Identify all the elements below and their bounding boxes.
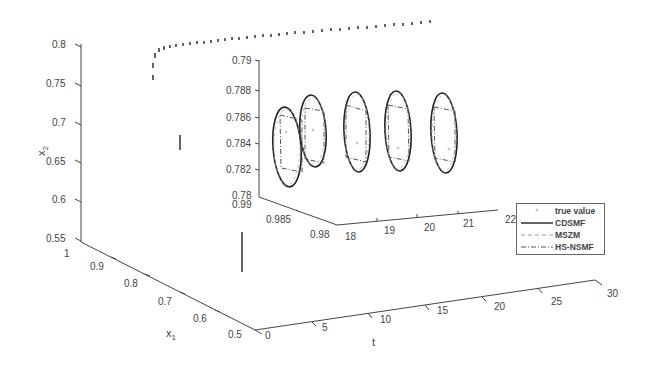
svg-text:22: 22 [505, 214, 517, 225]
svg-text:0: 0 [265, 330, 271, 341]
x1-axis-label: x1 [166, 327, 177, 342]
main-axes [75, 44, 602, 334]
svg-text:0.6: 0.6 [52, 194, 66, 205]
legend-item-hs-nsmf: HS-NSMF [517, 241, 604, 253]
svg-text:20: 20 [494, 301, 506, 312]
svg-text:0.9: 0.9 [90, 261, 104, 272]
svg-text:0.6: 0.6 [193, 313, 207, 324]
svg-text:0.788: 0.788 [226, 85, 251, 96]
svg-text:0.8: 0.8 [52, 39, 66, 50]
dashed-line-icon [517, 229, 553, 241]
svg-text:0.98: 0.98 [310, 229, 330, 240]
x2-axis-label: x2 [35, 146, 50, 157]
legend-item-cdsmf: CDSMF [517, 217, 604, 229]
svg-text:0.784: 0.784 [226, 138, 251, 149]
x1-axis-line [81, 242, 255, 330]
svg-text:15: 15 [437, 305, 449, 316]
t-tick-labels: 0 5 10 15 20 25 30 [265, 288, 619, 341]
svg-text:0.99: 0.99 [232, 199, 252, 210]
svg-text:0.7: 0.7 [52, 117, 66, 128]
svg-text:0.79: 0.79 [232, 55, 252, 66]
svg-text:0.786: 0.786 [226, 112, 251, 123]
svg-text:0.7: 0.7 [158, 296, 172, 307]
svg-text:25: 25 [551, 296, 563, 307]
ellipse-t22 [429, 92, 459, 173]
x1-tick-labels: 1 0.9 0.8 0.7 0.6 0.5 [64, 248, 242, 340]
svg-text:0.75: 0.75 [46, 78, 66, 89]
legend: true value CDSMF MSZM HS-NSMF [516, 203, 605, 255]
inset-t-tick-labels: 18 19 20 21 22 [345, 214, 517, 242]
svg-text:0.8: 0.8 [124, 278, 138, 289]
chart-canvas: 0.8 0.75 0.7 0.65 0.6 0.55 x2 1 0.9 0.8 … [0, 0, 645, 366]
ellipse-t21 [383, 90, 413, 171]
dot-marker-icon [517, 205, 553, 217]
legend-item-true-value: true value [517, 205, 604, 217]
svg-text:5: 5 [322, 322, 328, 333]
ellipse-t18 [270, 106, 304, 188]
inset-x2-tick-labels: 0.79 0.788 0.786 0.784 0.782 0.78 [226, 55, 252, 201]
svg-text:21: 21 [463, 218, 475, 229]
solid-line-icon [517, 217, 553, 229]
legend-item-mszm: MSZM [517, 229, 604, 241]
svg-text:18: 18 [345, 231, 357, 242]
svg-text:0.55: 0.55 [46, 233, 66, 244]
svg-text:20: 20 [424, 222, 436, 233]
svg-text:0.782: 0.782 [226, 164, 251, 175]
svg-text:0.65: 0.65 [46, 156, 66, 167]
t-axis-label: t [372, 336, 375, 348]
svg-text:10: 10 [380, 314, 392, 325]
x2-tick-labels: 0.8 0.75 0.7 0.65 0.6 0.55 [46, 39, 66, 244]
svg-text:30: 30 [607, 288, 619, 299]
ellipse-t20 [342, 91, 372, 172]
svg-text:1: 1 [64, 248, 70, 259]
svg-text:0.985: 0.985 [266, 214, 291, 225]
svg-text:19: 19 [384, 225, 396, 236]
dash-dot-line-icon [517, 241, 553, 253]
inset-axes [255, 60, 498, 225]
svg-text:0.5: 0.5 [228, 329, 242, 340]
